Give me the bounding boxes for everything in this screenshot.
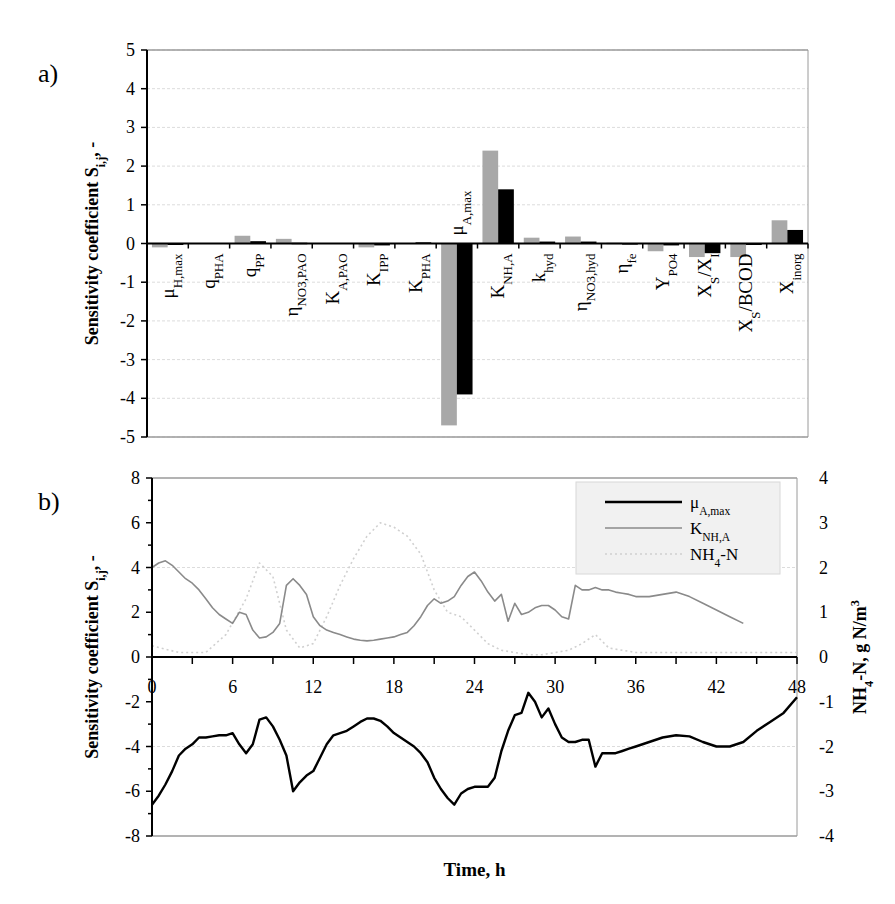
y-tick-label: 5 [126,40,135,60]
figure-svg: a)543210-1-2-3-4-5μH,maxqPHAqPPηNO3,PAOK… [0,0,895,904]
y2-tick-label: 4 [819,468,828,488]
legend: μA,maxKNH,ANH4-N [576,482,780,574]
x-tick-label: 18 [385,677,403,697]
bar [235,236,251,244]
y2-tick-label: -1 [819,692,834,712]
bar [441,244,457,426]
y-tick-label: -2 [125,692,140,712]
x-tick-label: 24 [466,677,484,697]
bar [498,189,514,243]
y-tick-label: -2 [120,311,135,331]
category-label: μA,max [446,190,474,236]
y-axis-label-a: Sensitivity coefficient Si,j, - [82,142,108,346]
y-tick-label: -3 [120,350,135,370]
y-tick-label: 3 [126,117,135,137]
y-tick-label: 8 [131,468,140,488]
category-label: XS/XI [694,254,722,298]
y-tick-label: -4 [120,388,135,408]
bar [648,244,664,252]
bar [705,244,721,254]
y-tick-label: 0 [131,647,140,667]
category-label: qPP [239,254,267,278]
series-line-mu-a-max [152,693,797,805]
y2-tick-label: -2 [819,737,834,757]
bar [482,151,498,244]
x-tick-label: 48 [788,677,806,697]
y-tick-label: -5 [120,427,135,447]
x-tick-label: 36 [627,677,645,697]
y-tick-label: -8 [125,826,140,846]
x-tick-label: 42 [707,677,725,697]
panel-a-bar-chart: a)543210-1-2-3-4-5μH,maxqPHAqPPηNO3,PAOK… [38,40,808,447]
y2-tick-label: 0 [819,647,828,667]
x-tick-label: 12 [304,677,322,697]
category-label: ηNO3,PAO [281,254,309,317]
y-axis-label-b: Sensitivity coefficient Si,j, - [82,555,108,759]
y-tick-label: 2 [126,156,135,176]
y-tick-label: 1 [126,195,135,215]
figure: a)543210-1-2-3-4-5μH,maxqPHAqPPηNO3,PAOK… [0,0,895,904]
y-tick-label: 4 [126,79,135,99]
category-label: KIPP [363,254,391,286]
y-tick-label: -1 [120,272,135,292]
bar [457,244,473,395]
bar [565,237,581,244]
category-label: ηfe [611,253,639,273]
y-tick-label: -4 [125,737,140,757]
bar [772,220,788,243]
y2-tick-label: 1 [819,602,828,622]
panel-b-line-chart: b)86420-2-4-6-8061218243036424843210-1-2… [38,468,876,880]
y-tick-label: 0 [126,234,135,254]
x-tick-label: 6 [228,677,237,697]
y2-axis-label: NH4-N, g N/m3 [848,600,876,714]
y-tick-label: 6 [131,513,140,533]
y2-tick-label: -3 [819,781,834,801]
category-label: KNH,A [487,253,515,299]
y2-tick-label: -4 [819,826,834,846]
panel-label-b: b) [38,487,60,516]
y-tick-label: -6 [125,781,140,801]
y-tick-label: 2 [131,602,140,622]
y2-tick-label: 3 [819,513,828,533]
y-tick-label: 4 [131,558,140,578]
panel-label-a: a) [38,59,58,88]
x-tick-label: 0 [148,677,157,697]
category-label: KA,PAO [322,254,350,305]
x-tick-label: 30 [546,677,564,697]
category-label: khyd [528,253,556,282]
category-label: μH,max [157,253,185,299]
x-axis-label: Time, h [444,859,506,880]
y2-tick-label: 2 [819,558,828,578]
category-label: KPHA [405,253,433,293]
category-label: qPHA [198,253,226,289]
category-label: Xinorg [776,253,804,294]
bar [689,244,705,258]
bar [787,230,803,244]
category-label: YPO4 [652,253,680,290]
